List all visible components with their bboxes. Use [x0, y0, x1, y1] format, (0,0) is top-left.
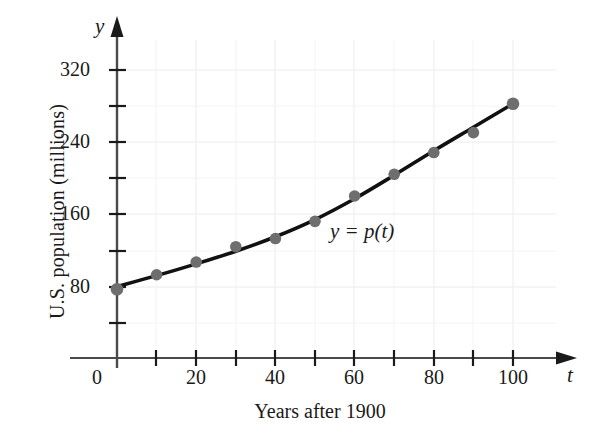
data-point — [388, 168, 400, 180]
y-axis-variable-label: y — [95, 14, 104, 39]
data-point — [349, 190, 361, 202]
x-axis-title: Years after 1900 — [200, 400, 440, 423]
data-point — [270, 233, 282, 245]
x-tick-label-100: 100 — [493, 366, 533, 389]
data-point — [230, 241, 242, 253]
x-tick-label-20: 20 — [176, 366, 216, 389]
gridlines-group — [117, 40, 556, 358]
data-point — [190, 256, 202, 268]
population-chart-figure: y t 320 240 160 80 0 20 40 60 80 100 U.S… — [0, 0, 599, 435]
data-point — [111, 283, 124, 296]
x-tick-label-60: 60 — [334, 366, 374, 389]
curve-equation-annotation: y = p(t) — [330, 219, 394, 244]
data-point — [309, 216, 321, 228]
y-axis-title: U.S. population (millions) — [46, 67, 69, 357]
data-point — [151, 269, 163, 281]
data-point — [468, 127, 480, 139]
x-tick-label-80: 80 — [414, 366, 454, 389]
x-tick-label-0: 0 — [77, 366, 117, 389]
data-point — [428, 147, 440, 159]
x-tick-label-40: 40 — [255, 366, 295, 389]
x-axis-variable-label: t — [567, 363, 573, 388]
axes-group — [70, 16, 577, 368]
data-point — [507, 97, 520, 110]
